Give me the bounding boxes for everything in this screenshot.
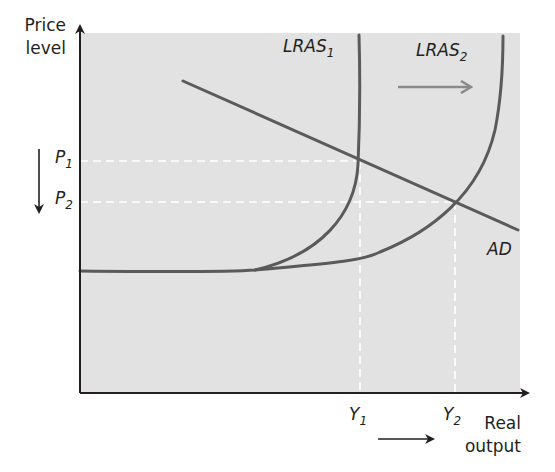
ad-label: AD	[486, 239, 512, 259]
y1-label: Y1	[349, 404, 367, 428]
p2-label: P2	[55, 188, 73, 212]
lras-shift-diagram: Price level Real output LRAS1 LRAS2 AD P…	[0, 0, 555, 472]
x-axis-label-line2: output	[465, 436, 521, 456]
x-axis-label-line1: Real	[484, 413, 521, 433]
p1-label: P1	[55, 147, 73, 171]
y2-label: Y2	[443, 404, 461, 428]
y-axis-label-line1: Price	[25, 15, 66, 35]
y-axis-label-line2: level	[26, 38, 66, 58]
